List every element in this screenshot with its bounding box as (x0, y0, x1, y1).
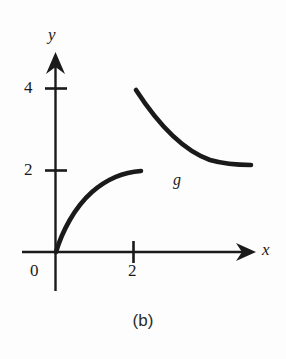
y-axis-label: y (48, 26, 56, 43)
x-tick-label-2: 2 (128, 262, 137, 279)
curve-right-branch (136, 90, 251, 165)
figure-container: y x 4 2 0 2 g (b) (0, 0, 286, 359)
x-axis-label: x (262, 241, 270, 258)
curve-left-branch (56, 171, 141, 252)
plot-canvas (0, 0, 286, 359)
origin-label: 0 (30, 262, 39, 279)
figure-caption: (b) (0, 312, 286, 329)
y-tick-label-2: 2 (24, 161, 33, 178)
y-tick-label-4: 4 (24, 79, 33, 96)
curve-label-g: g (173, 172, 181, 188)
